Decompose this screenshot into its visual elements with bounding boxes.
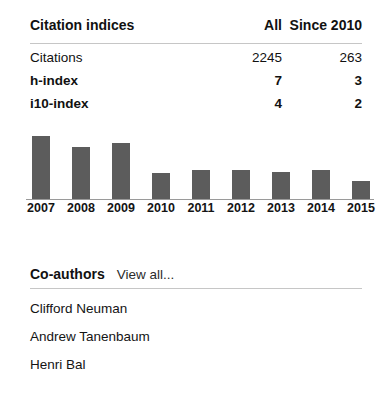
bar-2009[interactable] [112, 143, 130, 199]
table-divider [30, 43, 362, 44]
row-label-i10-index: i10-index [30, 91, 194, 114]
scholar-profile-panel: Citation indices All Since 2010 Citation… [0, 0, 392, 409]
coauthor-item[interactable]: Andrew Tanenbaum [30, 317, 362, 345]
h-index-since-2010-value: 3 [282, 68, 362, 91]
i10-index-since-2010-value: 2 [282, 91, 362, 114]
bar-2007[interactable] [32, 136, 50, 199]
year-label-2015: 2015 [341, 200, 381, 216]
year-label-2011: 2011 [181, 200, 221, 216]
table-row: h-index 7 3 [30, 68, 362, 91]
bar-2011[interactable] [192, 170, 210, 199]
citation-indices-header-row: Citation indices All Since 2010 [30, 16, 362, 39]
chart-plot-area [0, 126, 392, 201]
year-label-2008: 2008 [61, 200, 101, 216]
year-label-2013: 2013 [261, 200, 301, 216]
citations-per-year-chart: 200720082009201020112012201320142015 [0, 126, 392, 218]
bar-2012[interactable] [232, 170, 250, 199]
bar-2014[interactable] [312, 170, 330, 199]
row-label-citations: Citations [30, 45, 194, 68]
i10-index-all-value: 4 [194, 91, 282, 114]
column-header-all: All [194, 16, 282, 39]
bar-2008[interactable] [72, 147, 90, 199]
coauthor-item[interactable]: Clifford Neuman [30, 289, 362, 317]
column-header-since-2010: Since 2010 [282, 16, 362, 39]
coauthors-title: Co-authors [30, 266, 105, 282]
year-label-2009: 2009 [101, 200, 141, 216]
h-index-all-value: 7 [194, 68, 282, 91]
coauthors-view-all-link[interactable]: View all... [117, 267, 175, 282]
citations-since-2010-value: 263 [282, 45, 362, 68]
coauthors-section: Co-authors View all... Clifford NeumanAn… [30, 266, 362, 373]
table-row: Citations 2245 263 [30, 45, 362, 68]
row-label-h-index: h-index [30, 68, 194, 91]
bar-2013[interactable] [272, 172, 290, 199]
year-label-2010: 2010 [141, 200, 181, 216]
coauthors-list: Clifford NeumanAndrew TanenbaumHenri Bal [30, 289, 362, 373]
table-row: i10-index 4 2 [30, 91, 362, 114]
coauthors-header: Co-authors View all... [30, 266, 362, 288]
bar-2010[interactable] [152, 173, 170, 199]
coauthor-item[interactable]: Henri Bal [30, 345, 362, 373]
year-label-2014: 2014 [301, 200, 341, 216]
year-label-2007: 2007 [21, 200, 61, 216]
bar-2015[interactable] [352, 181, 370, 199]
citation-indices-title: Citation indices [30, 16, 194, 39]
chart-year-labels: 200720082009201020112012201320142015 [0, 200, 392, 218]
citation-indices-table: Citation indices All Since 2010 Citation… [30, 16, 362, 114]
citations-all-value: 2245 [194, 45, 282, 68]
year-label-2012: 2012 [221, 200, 261, 216]
